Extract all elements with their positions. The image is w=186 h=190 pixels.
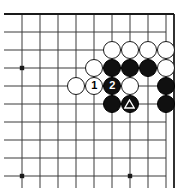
go-board-diagram: 12 (0, 0, 186, 190)
star-point (20, 66, 24, 70)
triangle-marker-icon (124, 99, 135, 109)
star-point (20, 174, 24, 178)
star-point (128, 174, 132, 178)
move-number-label: 1 (91, 80, 97, 91)
move-number-label: 2 (109, 80, 115, 91)
